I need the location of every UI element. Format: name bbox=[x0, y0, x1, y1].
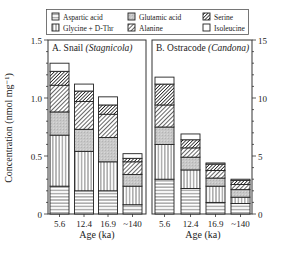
segment-aspartic-acid bbox=[50, 186, 69, 214]
bar-12-4 bbox=[75, 84, 94, 214]
glutamic-acid-swatch-icon bbox=[128, 13, 135, 20]
panel-a-y-axis: 00.51.01.5 bbox=[31, 36, 48, 220]
legend: Aspartic acidGlutamic acidSerineGlycine … bbox=[47, 10, 249, 35]
legend-item-alanine: Alanine bbox=[128, 24, 163, 33]
segment-isoleucine bbox=[206, 163, 225, 164]
segment-glutamic-acid bbox=[155, 127, 174, 144]
y-tick-label: 1.0 bbox=[31, 94, 43, 104]
segment-isoleucine bbox=[123, 154, 142, 159]
segment-alanine bbox=[123, 162, 142, 175]
segment-glutamic-acid bbox=[231, 190, 250, 198]
legend-item-serine: Serine bbox=[203, 13, 234, 22]
segment-serine bbox=[206, 164, 225, 170]
segment-isoleucine bbox=[99, 97, 118, 105]
alanine-swatch-icon bbox=[128, 24, 135, 31]
legend-label: Serine bbox=[214, 13, 234, 22]
segment-aspartic-acid bbox=[99, 191, 118, 214]
segment-serine bbox=[181, 140, 200, 148]
segment-glutamic-acid bbox=[50, 112, 69, 135]
segment-aspartic-acid bbox=[231, 204, 250, 214]
segment-serine bbox=[155, 84, 174, 105]
panel-b-y-axis: 051015 bbox=[252, 36, 268, 220]
bar-140 bbox=[231, 179, 250, 214]
segment-isoleucine bbox=[155, 77, 174, 84]
segment-serine bbox=[75, 91, 94, 101]
segment-glutamic-acid bbox=[99, 137, 118, 161]
segment-alanine bbox=[155, 105, 174, 127]
segment-aspartic-acid bbox=[155, 179, 174, 214]
panel-a-bars bbox=[50, 63, 142, 214]
segment-glycine-d-thr bbox=[50, 135, 69, 186]
bar-5-6 bbox=[50, 63, 69, 214]
segment-aspartic-acid bbox=[123, 205, 142, 214]
legend-item-isoleucine: Isoleucine bbox=[203, 24, 245, 33]
y-tick-label: 0 bbox=[38, 210, 43, 220]
panel-b: B. Ostracode (Candona) 051015 5.612.416.… bbox=[152, 36, 268, 242]
bar-140 bbox=[123, 154, 142, 214]
panel-a-x-ticks: 5.612.416.9~140 bbox=[54, 214, 142, 229]
segment-aspartic-acid bbox=[181, 188, 200, 214]
segment-alanine bbox=[50, 85, 69, 112]
x-tick-label: 5.6 bbox=[159, 219, 171, 229]
segment-alanine bbox=[206, 171, 225, 179]
aspartic-acid-swatch-icon bbox=[52, 13, 59, 20]
bar-16-9 bbox=[206, 163, 225, 214]
serine-swatch-icon bbox=[203, 13, 210, 20]
x-tick-label: ~140 bbox=[123, 219, 142, 229]
panel-a-title: A. Snail (Stagnicola) bbox=[52, 43, 132, 54]
panel-a: A. Snail (Stagnicola) 00.51.01.5 5.612.4… bbox=[31, 36, 146, 242]
segment-serine bbox=[123, 158, 142, 161]
x-tick-label: 5.6 bbox=[54, 219, 66, 229]
segment-aspartic-acid bbox=[75, 191, 94, 214]
segment-isoleucine bbox=[181, 134, 200, 140]
bar-16-9 bbox=[99, 97, 118, 214]
segment-glutamic-acid bbox=[75, 129, 94, 151]
y-tick-label: 10 bbox=[258, 94, 268, 104]
panel-b-bars bbox=[155, 77, 250, 214]
panel-b-x-ticks: 5.612.416.9~140 bbox=[159, 214, 250, 229]
segment-alanine bbox=[231, 184, 250, 189]
segment-glutamic-acid bbox=[206, 178, 225, 186]
glycine-d-thr-swatch-icon bbox=[52, 24, 59, 31]
panel-b-x-axis-label: Age (ka) bbox=[185, 229, 220, 241]
segment-serine bbox=[231, 180, 250, 184]
amino-acid-chart: Aspartic acidGlutamic acidSerineGlycine … bbox=[0, 0, 284, 253]
x-tick-label: ~140 bbox=[231, 219, 250, 229]
segment-glutamic-acid bbox=[181, 157, 200, 170]
segment-glycine-d-thr bbox=[206, 186, 225, 202]
legend-label: Aspartic acid bbox=[63, 13, 103, 22]
segment-isoleucine bbox=[50, 63, 69, 71]
segment-glycine-d-thr bbox=[231, 197, 250, 203]
segment-glycine-d-thr bbox=[155, 144, 174, 179]
x-tick-label: 16.9 bbox=[100, 219, 116, 229]
segment-glycine-d-thr bbox=[181, 170, 200, 189]
x-tick-label: 12.4 bbox=[76, 219, 92, 229]
y-axis-label: Concentration (nmol mg⁻¹) bbox=[3, 73, 15, 183]
segment-alanine bbox=[181, 148, 200, 157]
isoleucine-swatch-icon bbox=[203, 24, 210, 31]
segment-aspartic-acid bbox=[206, 202, 225, 214]
y-tick-label: 0.5 bbox=[31, 152, 43, 162]
legend-label: Glycine + D-Thr bbox=[63, 24, 114, 33]
x-tick-label: 16.9 bbox=[208, 219, 224, 229]
legend-label: Glutamic acid bbox=[139, 13, 182, 22]
segment-alanine bbox=[99, 114, 118, 137]
y-tick-label: 5 bbox=[258, 152, 263, 162]
legend-label: Isoleucine bbox=[214, 24, 245, 33]
legend-label: Alanine bbox=[139, 24, 163, 33]
bar-12-4 bbox=[181, 134, 200, 214]
panel-b-title: B. Ostracode (Candona) bbox=[156, 43, 249, 54]
segment-glycine-d-thr bbox=[99, 162, 118, 191]
segment-serine bbox=[50, 71, 69, 85]
segment-alanine bbox=[75, 101, 94, 129]
y-tick-label: 1.5 bbox=[31, 36, 43, 46]
y-tick-label: 15 bbox=[258, 36, 268, 46]
y-tick-label: 0 bbox=[258, 210, 263, 220]
x-tick-label: 12.4 bbox=[183, 219, 199, 229]
segment-isoleucine bbox=[231, 179, 250, 180]
segment-glycine-d-thr bbox=[123, 186, 142, 205]
panel-a-x-axis-label: Age (ka) bbox=[79, 229, 114, 241]
segment-glutamic-acid bbox=[123, 175, 142, 187]
segment-isoleucine bbox=[75, 84, 94, 91]
segment-glycine-d-thr bbox=[75, 151, 94, 190]
